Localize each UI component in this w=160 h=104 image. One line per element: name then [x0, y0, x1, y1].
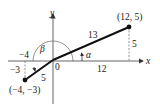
x-axis-label: x — [145, 56, 151, 66]
alpha-arc — [82, 53, 83, 61]
point-12-5 — [127, 25, 132, 30]
point-label-neg4-neg3: (−4, −3) — [9, 85, 40, 96]
length-label-13: 13 — [88, 30, 98, 40]
point-neg4-neg3 — [23, 78, 28, 83]
segment-to-neg4-neg3 — [25, 60, 53, 80]
y-axis-label: y — [49, 8, 55, 18]
dimension-label-neg3: −3 — [10, 65, 20, 75]
beta-arc-arrow-icon — [34, 67, 35, 71]
alpha-label: α — [86, 50, 92, 60]
beta-label: β — [39, 44, 45, 54]
origin-label: 0 — [55, 62, 60, 72]
dimension-label-neg4: −4 — [19, 50, 29, 60]
dimension-label-5: 5 — [132, 39, 137, 49]
dimension-label-12: 12 — [97, 64, 107, 74]
point-label-12-5: (12, 5) — [117, 12, 142, 23]
coordinate-diagram: y x 0 (12, 5) (−4, −3) 13 5 12 5 −4 −3 α… — [0, 0, 160, 104]
length-label-5: 5 — [41, 73, 46, 83]
